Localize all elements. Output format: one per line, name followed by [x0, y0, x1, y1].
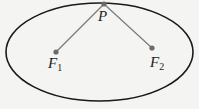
label-f1: F1	[48, 56, 62, 71]
segment-p-f2	[104, 4, 152, 48]
label-p: P	[98, 9, 107, 24]
label-f1-text: F	[48, 55, 57, 71]
label-f2-text: F	[150, 54, 159, 70]
point-f2	[149, 45, 154, 50]
label-f2-subscript: 2	[159, 61, 164, 72]
point-f1	[53, 49, 58, 54]
segment-p-f1	[56, 4, 104, 52]
label-f1-subscript: 1	[57, 62, 62, 73]
label-f2: F2	[150, 55, 164, 70]
label-p-text: P	[98, 8, 107, 24]
point-p	[101, 1, 106, 6]
